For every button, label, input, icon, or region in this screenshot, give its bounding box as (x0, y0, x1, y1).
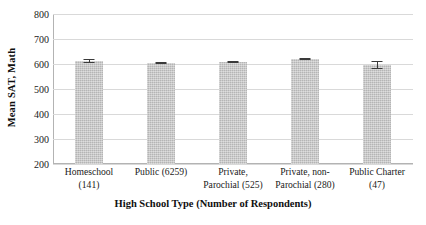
error-bar-cap-top (84, 59, 95, 60)
x-tick-label-line: (47) (341, 179, 413, 192)
y-axis-title: Mean SAT, Math (0, 0, 24, 175)
error-bar (372, 61, 383, 69)
x-tick-label: Private,Parochial (525) (197, 166, 269, 191)
x-tick-label-line: Public Charter (341, 166, 413, 179)
error-bar (84, 59, 95, 63)
sat-math-by-high-school-type-bar-chart: Mean SAT, Math 200300400500600700800 Hom… (0, 0, 426, 225)
x-tick-label: Private, non-Parochial (280) (269, 166, 341, 191)
bar[interactable] (75, 61, 103, 164)
y-tick-label-500: 500 (34, 84, 49, 95)
x-tick-label-line: Private, (197, 166, 269, 179)
gridline-200 (53, 164, 413, 165)
bar-slot (341, 14, 413, 164)
y-tick-label-800: 800 (34, 9, 49, 20)
error-bar (228, 61, 239, 63)
y-tick-label-600: 600 (34, 59, 49, 70)
y-tick-label-700: 700 (34, 34, 49, 45)
y-axis-tick-labels: 200300400500600700800 (22, 14, 52, 164)
bar[interactable] (219, 62, 247, 164)
plot-area (53, 14, 413, 164)
x-tick-label: Public (6259) (125, 166, 197, 179)
y-tick-label-300: 300 (34, 134, 49, 145)
error-bar-cap-bottom (156, 63, 167, 64)
y-tick-label-400: 400 (34, 109, 49, 120)
x-tick-label-line: Parochial (525) (197, 179, 269, 192)
bar[interactable] (291, 59, 319, 164)
bar-slot (269, 14, 341, 164)
y-axis-title-text: Mean SAT, Math (7, 48, 18, 128)
x-tick-label-line: Public (6259) (125, 166, 197, 179)
bar-slot (197, 14, 269, 164)
error-bar-cap-top (372, 61, 383, 62)
error-bar (300, 58, 311, 61)
bar-slot (53, 14, 125, 164)
bar[interactable] (147, 63, 175, 164)
y-tick-label-200: 200 (34, 159, 49, 170)
bar-slot (125, 14, 197, 164)
x-tick-label-line: Parochial (280) (269, 179, 341, 192)
x-axis-tick-labels: Homeschool(141)Public (6259)Private,Paro… (53, 166, 413, 198)
x-tick-label-line: Private, non- (269, 166, 341, 179)
error-bar-cap-bottom (300, 59, 311, 60)
x-tick-label: Homeschool(141) (53, 166, 125, 191)
error-bar-cap-bottom (84, 62, 95, 63)
x-tick-label-line: Homeschool (53, 166, 125, 179)
error-bar-cap-bottom (228, 62, 239, 63)
error-bar (156, 62, 167, 64)
x-axis-title: High School Type (Number of Respondents) (0, 198, 426, 209)
error-bar-cap-bottom (372, 68, 383, 69)
x-tick-label-line: (141) (53, 179, 125, 192)
x-tick-label: Public Charter(47) (341, 166, 413, 191)
bar[interactable] (363, 65, 391, 164)
